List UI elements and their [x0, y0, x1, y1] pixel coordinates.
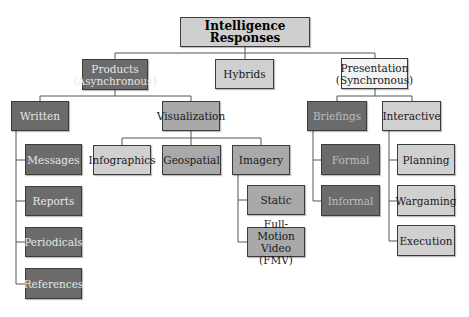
- node-hybrids: Hybrids: [215, 59, 274, 89]
- node-static: Static: [247, 185, 305, 215]
- node-written: Written: [11, 101, 69, 131]
- node-reports: Reports: [25, 186, 82, 216]
- node-execution: Execution: [397, 225, 455, 256]
- node-products: Products (Asynchronous): [82, 59, 148, 90]
- node-infographics: Infographics: [93, 145, 151, 175]
- node-visualization: Visualization: [162, 101, 220, 131]
- node-interactive: Interactive: [382, 101, 441, 131]
- node-briefings: Briefings: [307, 101, 367, 131]
- node-intelligence-responses: Intelligence Responses: [180, 17, 310, 47]
- node-presentation: Presentation (Synchronous): [341, 58, 408, 89]
- node-references: References: [25, 268, 82, 299]
- node-messages: Messages: [25, 144, 82, 175]
- node-planning: Planning: [397, 144, 455, 175]
- node-imagery: Imagery: [232, 145, 290, 175]
- node-informal: Informal: [321, 185, 380, 216]
- node-formal: Formal: [321, 144, 380, 175]
- node-wargaming: Wargaming: [397, 185, 455, 216]
- node-geospatial: Geospatial: [162, 145, 221, 175]
- node-periodicals: Periodicals: [25, 227, 82, 257]
- node-fmv: Full-Motion Video (FMV): [247, 227, 305, 257]
